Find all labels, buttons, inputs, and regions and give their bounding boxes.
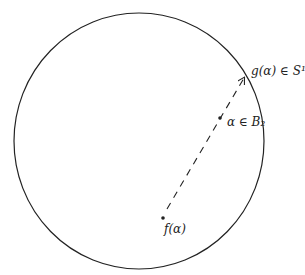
label-alpha: α ∈ B₂ [227, 115, 265, 129]
point-f-alpha [161, 216, 165, 220]
label-g-alpha: g(α) ∈ S¹ [251, 64, 305, 78]
label-f-alpha: f(α) [163, 222, 186, 236]
unit-circle [14, 13, 264, 269]
dashed-ray [167, 78, 244, 209]
point-alpha [218, 116, 222, 120]
diagram-canvas: g(α) ∈ S¹ α ∈ B₂ f(α) [0, 0, 305, 275]
